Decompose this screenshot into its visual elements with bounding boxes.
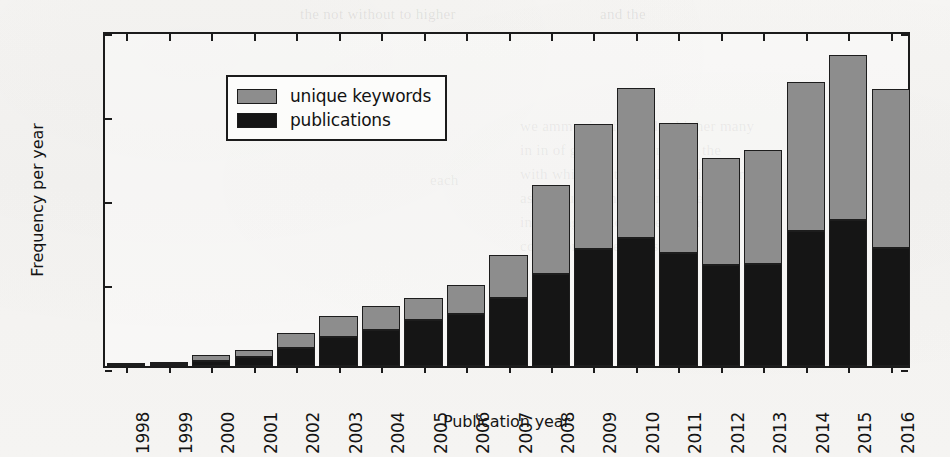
chart-legend: unique keywords publications: [226, 75, 447, 141]
bar-segment-unique-keywords: [362, 306, 400, 330]
bar-segment-publications: [574, 249, 612, 366]
x-tick-mark: [848, 366, 850, 373]
bar-segment-unique-keywords: [702, 158, 740, 266]
bar-segment-publications: [150, 364, 188, 366]
y-axis-label: Frequency per year: [28, 123, 47, 276]
bar-group: [744, 150, 782, 366]
bar-segment-publications: [829, 220, 867, 366]
x-tick-mark: [126, 366, 128, 373]
x-tick-mark: [636, 366, 638, 373]
bar-segment-publications: [617, 238, 655, 366]
bar-segment-publications: [277, 348, 315, 366]
bar-segment-publications: [235, 357, 273, 366]
x-tick-mark: [763, 366, 765, 373]
legend-entry-publications: publications: [237, 108, 431, 132]
x-axis-label: Publication year: [103, 412, 910, 431]
bar-segment-publications: [744, 264, 782, 366]
x-tick-mark: [211, 366, 213, 373]
bar-group: [404, 298, 442, 366]
bar-segment-unique-keywords: [744, 150, 782, 263]
legend-label-unique-keywords: unique keywords: [290, 86, 431, 106]
x-tick-mark: [339, 366, 341, 373]
bar-segment-unique-keywords: [404, 298, 442, 320]
bar-group: [447, 285, 485, 366]
x-tick-mark: [593, 366, 595, 373]
x-tick-mark: [806, 366, 808, 373]
bar-segment-publications: [532, 274, 570, 366]
bar-group: [107, 364, 145, 366]
x-tick-mark: [424, 366, 426, 373]
bar-segment-publications: [787, 231, 825, 366]
legend-swatch-keywords-icon: [237, 89, 277, 104]
bar-group: [787, 82, 825, 366]
bar-group: [362, 306, 400, 366]
bar-group: [574, 124, 612, 366]
bar-segment-unique-keywords: [872, 89, 910, 249]
plot-area: Frequency per year 05000100001500020000 …: [103, 32, 910, 368]
bar-segment-unique-keywords: [235, 350, 273, 357]
x-tick-mark: [509, 366, 511, 373]
bar-segment-unique-keywords: [447, 285, 485, 314]
bar-segment-unique-keywords: [829, 55, 867, 220]
y-tick-mark-right: [901, 370, 908, 372]
x-tick-mark: [891, 366, 893, 373]
x-tick-mark: [678, 366, 680, 373]
legend-entry-unique-keywords: unique keywords: [237, 84, 431, 108]
bar-segment-unique-keywords: [277, 333, 315, 348]
x-tick-mark: [169, 366, 171, 373]
bar-segment-unique-keywords: [787, 82, 825, 231]
bar-segment-unique-keywords: [489, 255, 527, 298]
bar-segment-publications: [404, 320, 442, 366]
bar-group: [235, 350, 273, 366]
x-tick-mark: [254, 366, 256, 373]
bar-segment-unique-keywords: [319, 316, 357, 338]
bar-group: [659, 123, 697, 366]
bar-group: [150, 362, 188, 366]
bar-segment-unique-keywords: [617, 88, 655, 238]
bar-segment-unique-keywords: [574, 124, 612, 249]
bar-segment-unique-keywords: [150, 362, 188, 364]
chart-figure: Frequency per year 05000100001500020000 …: [0, 0, 950, 457]
x-tick-mark: [551, 366, 553, 373]
bar-group: [532, 185, 570, 366]
bar-segment-unique-keywords: [532, 185, 570, 274]
bar-group: [319, 316, 357, 366]
bar-segment-unique-keywords: [192, 355, 230, 361]
legend-swatch-publications-icon: [237, 113, 277, 128]
bar-group: [872, 89, 910, 366]
bar-group: [277, 333, 315, 366]
bar-group: [617, 88, 655, 366]
bar-segment-publications: [702, 265, 740, 366]
bar-group: [829, 55, 867, 366]
bar-segment-publications: [659, 253, 697, 366]
bar-group: [489, 255, 527, 366]
bar-group: [192, 355, 230, 366]
legend-label-publications: publications: [290, 110, 391, 130]
y-tick-mark: [105, 370, 112, 372]
bar-segment-unique-keywords: [659, 123, 697, 253]
x-tick-mark: [381, 366, 383, 373]
x-tick-mark: [466, 366, 468, 373]
bar-segment-publications: [489, 298, 527, 366]
bar-segment-publications: [872, 248, 910, 366]
x-tick-mark: [296, 366, 298, 373]
bar-group: [702, 158, 740, 366]
bar-segment-publications: [192, 361, 230, 366]
bar-segment-publications: [319, 337, 357, 366]
bar-segment-publications: [447, 314, 485, 366]
bar-segment-unique-keywords: [107, 363, 145, 365]
x-tick-mark: [721, 366, 723, 373]
bar-segment-publications: [362, 330, 400, 366]
